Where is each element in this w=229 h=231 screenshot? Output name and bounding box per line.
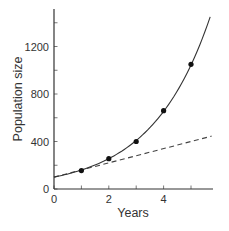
x-axis-label: Years [117,206,149,220]
y-tick-label: 0 [43,183,49,195]
y-tick-label: 400 [31,136,49,148]
series-layer [54,17,212,177]
x-tick-label: 0 [51,193,57,205]
exponential-curve [54,17,210,177]
x-tick-label: 4 [161,193,167,205]
y-axis-ticks: 04008001200 [25,23,58,195]
data-point-marker [161,108,166,113]
y-tick-label: 1200 [25,41,49,53]
y-axis-label: Population size [11,57,25,142]
population-chart: 04008001200 024 Years Population size [0,0,229,231]
data-point-marker [134,139,139,144]
x-tick-label: 2 [106,193,112,205]
data-point-marker [79,168,84,173]
data-point-marker [106,156,111,161]
data-point-marker [188,62,193,67]
y-tick-label: 800 [31,88,49,100]
